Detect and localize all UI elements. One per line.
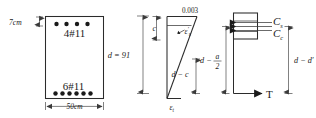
- svg-text:Cc: Cc: [273, 27, 283, 41]
- effective-depth-label: d = 91: [108, 51, 130, 60]
- tension-force-label: T: [266, 88, 273, 100]
- lever-arm-label-base: d −: [200, 56, 212, 65]
- lever-arm-dimension: [222, 27, 230, 94]
- compression-steel-strain-label: ε′s: [185, 26, 191, 37]
- tension-strain-subscript: t: [173, 107, 175, 113]
- steel-lever-arm-label: d − d′: [294, 56, 314, 65]
- d-minus-c-label: d − c: [172, 70, 189, 79]
- tension-strain-label: εt: [170, 103, 175, 113]
- strain-profile-line: [167, 17, 197, 99]
- svg-text:εt: εt: [170, 103, 175, 113]
- effective-depth-dimension: [137, 16, 149, 94]
- lever-arm-label: d − a 2: [200, 52, 222, 72]
- top-strain-label: 0.003: [182, 7, 199, 15]
- compression-stress-block: [234, 13, 258, 39]
- reinforced-beam-figure: 7cm 4#11 6#11 50cm d = 91: [0, 0, 316, 118]
- cover-label: 7cm: [9, 18, 22, 27]
- cover-dimension: [36, 17, 43, 26]
- width-label: 50cm: [66, 102, 83, 111]
- compression-force-arrows: [236, 23, 272, 31]
- lever-arm-numerator: a: [216, 52, 220, 61]
- lever-arm-denominator: 2: [216, 62, 220, 71]
- compression-steel-force-subscript: s: [280, 22, 283, 29]
- bottom-bars-label: 6#11: [63, 80, 85, 92]
- neutral-axis-depth-label: c: [153, 24, 157, 33]
- svg-text:ε′s: ε′s: [185, 26, 191, 37]
- compression-steel-strain-subscript: s: [189, 31, 191, 37]
- concrete-force-label: Cc: [273, 27, 283, 41]
- top-bars-label: 4#11: [64, 27, 86, 39]
- figure-canvas: 7cm 4#11 6#11 50cm d = 91: [0, 0, 316, 118]
- beam-cross-section-group: [36, 16, 149, 110]
- strain-diagram-group: [153, 17, 201, 99]
- d-minus-c-dimension: [192, 59, 200, 94]
- concrete-force-subscript: c: [280, 34, 283, 41]
- steel-lever-arm-dimension: [285, 27, 293, 94]
